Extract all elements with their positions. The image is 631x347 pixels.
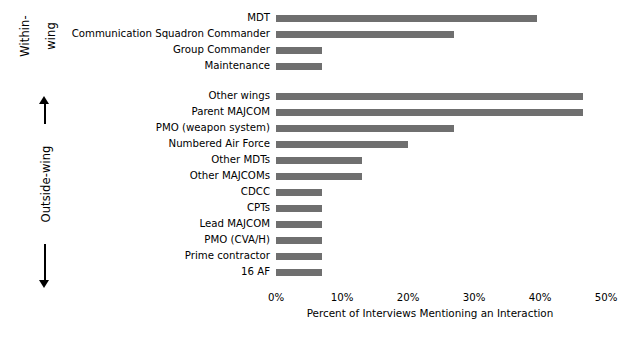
bar (276, 157, 362, 164)
category-label: Other MDTs (62, 154, 270, 165)
bar (276, 15, 537, 22)
bar (276, 173, 362, 180)
bar (276, 47, 322, 54)
x-tick-label: 10% (322, 292, 362, 303)
bar (276, 93, 583, 100)
bar (276, 189, 322, 196)
chart-figure: Within- wing Outside-wing MDTCommunicati… (0, 0, 631, 347)
bar (276, 63, 322, 70)
outside-wing-group-bracket: Outside-wing (28, 96, 62, 288)
arrow-down-icon (39, 280, 49, 288)
category-label: Group Commander (62, 44, 270, 55)
category-label: CPTs (62, 202, 270, 213)
x-tick-label: 40% (520, 292, 560, 303)
category-label: Prime contractor (62, 250, 270, 261)
category-label: PMO (weapon system) (62, 122, 270, 133)
bar (276, 253, 322, 260)
category-label: CDCC (62, 186, 270, 197)
category-axis-labels: MDTCommunication Squadron CommanderGroup… (62, 0, 274, 300)
bar (276, 109, 583, 116)
x-axis-tick-labels: 0%10%20%30%40%50% (200, 292, 631, 308)
category-label: Numbered Air Force (62, 138, 270, 149)
bar (276, 237, 322, 244)
x-tick-label: 30% (454, 292, 494, 303)
outside-wing-group-label: Outside-wing (36, 124, 56, 244)
category-label: MDT (62, 12, 270, 23)
category-label: Communication Squadron Commander (62, 28, 270, 39)
bar (276, 141, 408, 148)
group-axis-column: Within- wing Outside-wing (0, 0, 62, 347)
category-label: 16 AF (62, 266, 270, 277)
bar (276, 221, 322, 228)
x-tick-label: 0% (256, 292, 296, 303)
category-label: Other MAJCOMs (62, 170, 270, 181)
category-label: Parent MAJCOM (62, 106, 270, 117)
x-tick-label: 20% (388, 292, 428, 303)
bar (276, 205, 322, 212)
bar (276, 31, 454, 38)
category-label: Lead MAJCOM (62, 218, 270, 229)
x-axis-title: Percent of Interviews Mentioning an Inte… (230, 307, 630, 319)
within-wing-label-line-2: wing (45, 15, 58, 56)
category-label: PMO (CVA/H) (62, 234, 270, 245)
bar (276, 125, 454, 132)
category-label: Other wings (62, 90, 270, 101)
bar (276, 269, 322, 276)
category-label: Maintenance (62, 60, 270, 71)
x-tick-label: 50% (586, 292, 626, 303)
within-wing-group-label: Within- wing (10, 0, 66, 80)
within-wing-label-line-1: Within- (19, 15, 32, 56)
plot-area (276, 8, 606, 293)
